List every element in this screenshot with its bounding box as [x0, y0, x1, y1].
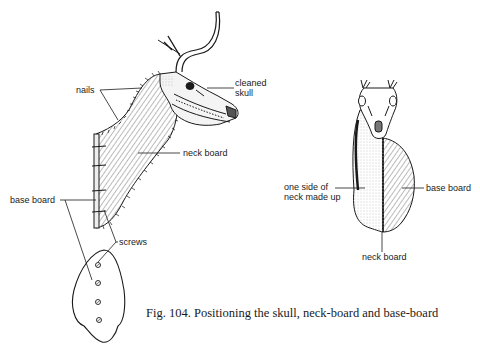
- figure-caption: Fig. 104. Positioning the skull, neck-bo…: [146, 306, 438, 321]
- base-board-edge: [94, 134, 99, 228]
- label-cleaned-skull-2: skull: [235, 88, 253, 98]
- diagram-canvas: nails cleaned skull neck board base boar…: [0, 0, 480, 344]
- screw-holes: [96, 263, 102, 323]
- label-nails: nails: [76, 85, 95, 95]
- label-screws: screws: [119, 237, 148, 247]
- label-cleaned-skull-1: cleaned: [235, 78, 267, 88]
- antler-icon: [158, 12, 220, 72]
- front-base-board: [383, 138, 414, 232]
- label-front-base-board: base board: [426, 183, 471, 193]
- front-view-figure: one side of neck made up base board neck…: [284, 80, 471, 262]
- antler-stubs-icon: [361, 80, 397, 88]
- label-neck-board: neck board: [183, 148, 228, 158]
- label-one-side-1: one side of: [284, 182, 329, 192]
- label-base-board: base board: [10, 195, 55, 205]
- label-front-neck-board: neck board: [362, 252, 407, 262]
- label-one-side-2: neck made up: [284, 192, 341, 202]
- side-view-figure: nails cleaned skull neck board base boar…: [10, 12, 267, 342]
